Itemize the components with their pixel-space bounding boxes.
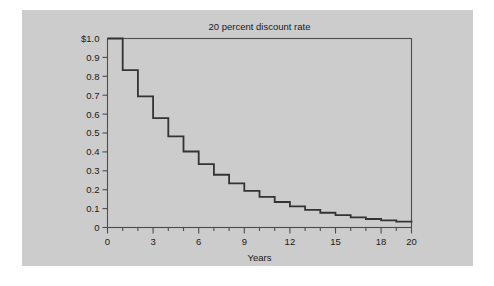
x-axis-tick-label: 20 (406, 236, 417, 247)
y-axis-tick-label: 0.6 (86, 109, 99, 120)
plot-frame (108, 39, 412, 228)
chart-svg: $1.00.90.80.70.60.50.40.30.20.1003691215… (0, 0, 494, 286)
x-axis-tick-label: 6 (196, 236, 201, 247)
x-axis-tick-label: 0 (105, 236, 110, 247)
chart-title: 20 percent discount rate (209, 21, 311, 32)
x-axis-tick-label: 18 (376, 236, 387, 247)
y-axis-tick-label: 0.1 (86, 203, 99, 214)
y-axis-tick-label: 0.7 (86, 90, 99, 101)
x-axis-tick-label: 9 (242, 236, 247, 247)
y-axis-tick-label: $1.0 (81, 33, 100, 44)
x-axis-title: Years (248, 252, 272, 263)
discount-factor-step-line (108, 39, 412, 223)
x-axis-tick-label: 12 (285, 236, 296, 247)
x-axis-tick-label: 15 (330, 236, 341, 247)
y-axis-tick-label: 0.2 (86, 184, 99, 195)
y-axis-tick-label: 0.9 (86, 52, 99, 63)
y-axis-tick-label: 0.3 (86, 165, 99, 176)
y-axis-tick-label: 0.8 (86, 71, 99, 82)
y-axis-tick-label: 0.5 (86, 127, 99, 138)
y-axis-tick-label: 0.4 (86, 146, 99, 157)
y-axis-tick-label: 0 (94, 222, 99, 233)
x-axis-tick-label: 3 (150, 236, 155, 247)
figure-container: $1.00.90.80.70.60.50.40.30.20.1003691215… (0, 0, 494, 286)
